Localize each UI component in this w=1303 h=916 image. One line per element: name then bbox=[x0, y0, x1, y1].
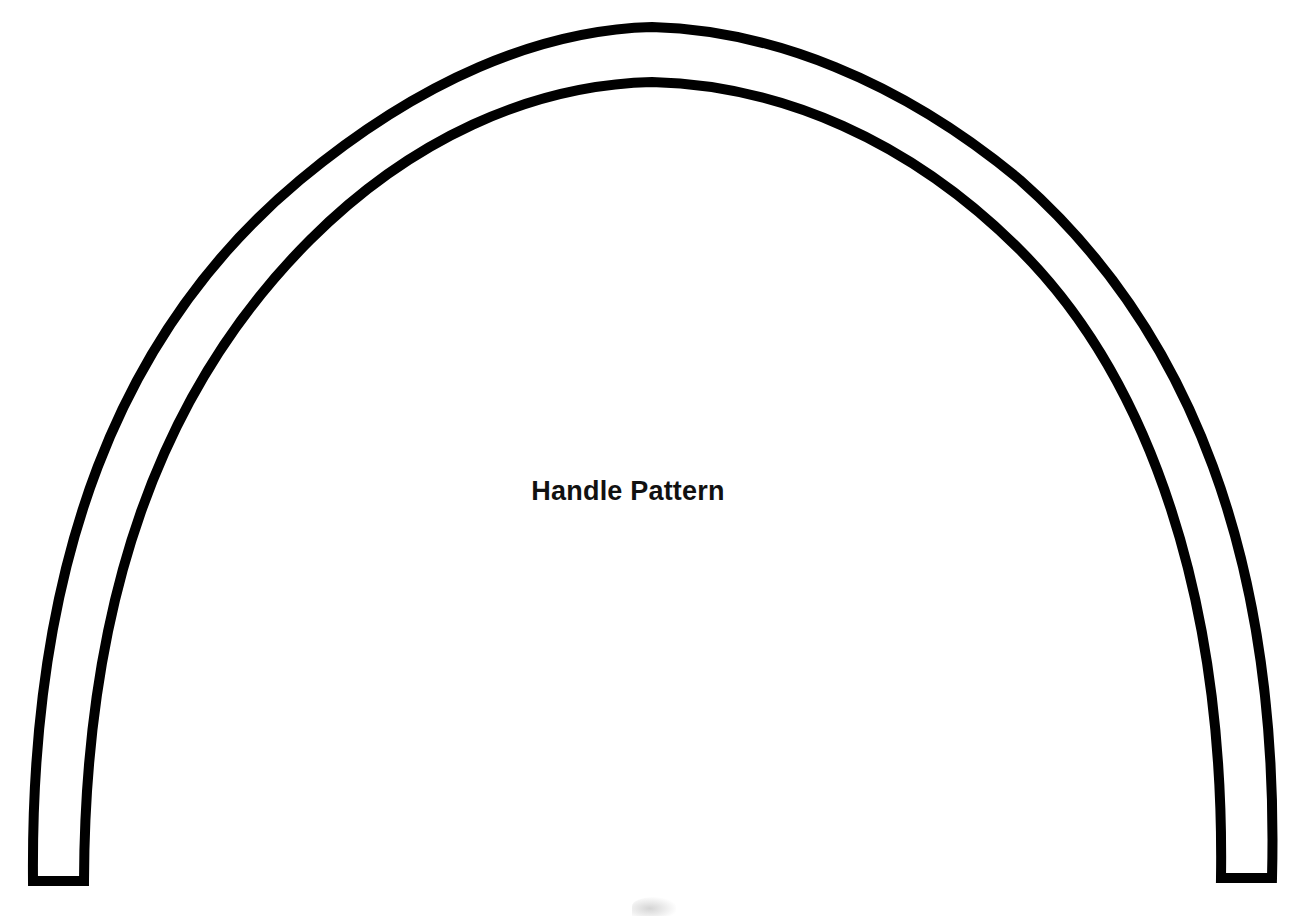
scan-smudge bbox=[632, 897, 676, 916]
handle-arch-outline bbox=[0, 0, 1303, 916]
handle-pattern-diagram: Handle Pattern bbox=[0, 0, 1303, 916]
pattern-title: Handle Pattern bbox=[0, 476, 1256, 507]
handle-outline-path bbox=[33, 27, 1273, 881]
